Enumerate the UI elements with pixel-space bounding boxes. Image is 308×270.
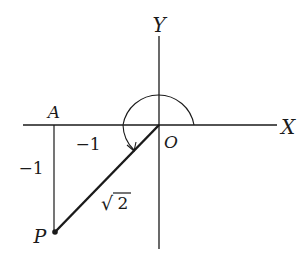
segment-op	[55, 125, 159, 232]
x-axis-label: X	[279, 115, 296, 139]
radicand: 2	[118, 193, 129, 213]
y-axis-label: Y	[152, 13, 167, 37]
diagram-canvas: Y X O A P −1 −1 √ 2	[0, 0, 308, 270]
point-p-dot	[52, 229, 58, 235]
point-a-label: A	[46, 102, 60, 122]
segment-op-label: √ 2	[101, 192, 131, 214]
radical-sign: √	[101, 192, 114, 214]
point-p-label: P	[33, 225, 48, 247]
segment-oa-label: −1	[75, 134, 100, 154]
origin-label: O	[164, 132, 178, 152]
segment-ap-label: −1	[18, 158, 43, 178]
